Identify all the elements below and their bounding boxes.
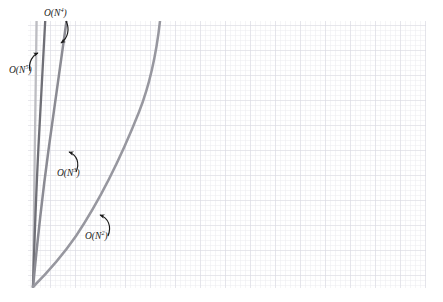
annotation-n3-base: O(N [57,168,73,178]
annotation-label-n4: O(N4) [44,6,67,18]
annotation-n3-close: ) [76,168,79,178]
annotation-n4-close: ) [63,8,66,18]
annotation-label-n3: O(N3) [57,166,80,178]
annotation-n2-base: O(N [85,231,101,241]
annotation-n2-close: ) [104,231,107,241]
growth-rate-plot [0,0,443,302]
annotation-n5-close: ) [28,65,31,75]
figure-canvas: O(N4) O(N5) O(N3) O(N2) [0,0,443,302]
annotation-label-n5: O(N5) [9,63,32,75]
grid-background [28,21,426,288]
annotation-n4-base: O(N [44,8,60,18]
annotation-n5-base: O(N [9,65,25,75]
annotation-label-n2: O(N2) [85,229,108,241]
